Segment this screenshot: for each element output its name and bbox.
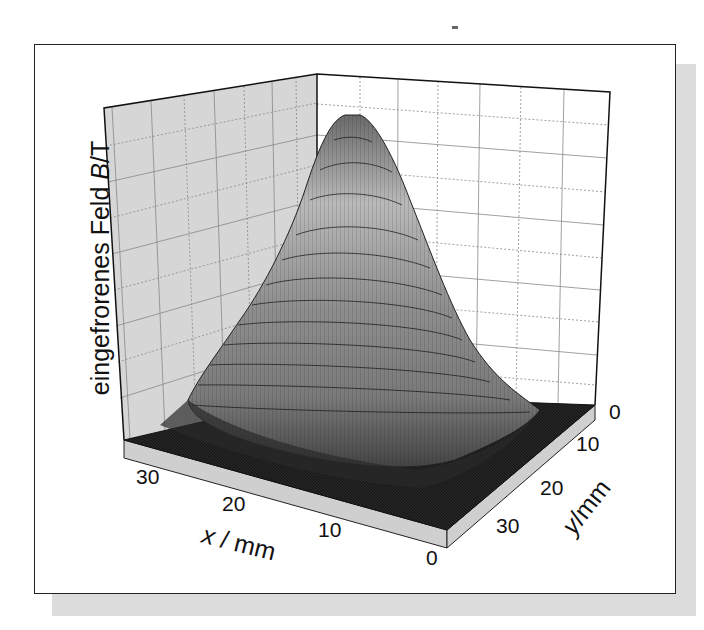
y-tick-20: 20 (540, 476, 563, 500)
x-tick-10: 10 (318, 518, 341, 542)
x-tick-30: 30 (136, 465, 159, 489)
z-axis-label: eingefrorenes Feld B/T (86, 141, 115, 395)
y-tick-10: 10 (576, 432, 599, 456)
y-tick-30: 30 (496, 514, 519, 538)
x-tick-20: 20 (222, 492, 245, 516)
y-tick-0: 0 (609, 400, 621, 424)
x-tick-0: 0 (426, 546, 438, 570)
